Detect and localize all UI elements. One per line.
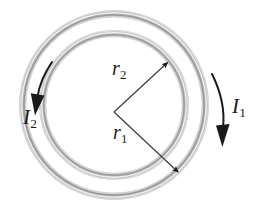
label-I2-subscript: 2 <box>30 116 37 131</box>
label-I2-symbol: I <box>23 105 30 129</box>
outer-ring <box>20 11 208 199</box>
label-I1-subscript: 1 <box>239 105 246 120</box>
figure-canvas <box>0 0 259 210</box>
label-r2-subscript: 2 <box>120 68 126 82</box>
physics-figure-two-concentric-loops: r2 r1 I1 I2 <box>0 0 259 210</box>
label-r2: r2 <box>112 58 126 82</box>
label-r2-symbol: r <box>112 57 120 79</box>
label-r1: r1 <box>113 122 127 146</box>
inner-ring <box>40 31 188 179</box>
label-I1: I1 <box>232 96 246 119</box>
I1-current-arrow <box>212 74 230 147</box>
label-I2: I2 <box>23 107 37 130</box>
label-I1-symbol: I <box>232 94 239 118</box>
label-r1-subscript: 1 <box>121 132 127 146</box>
label-r1-symbol: r <box>113 121 121 143</box>
